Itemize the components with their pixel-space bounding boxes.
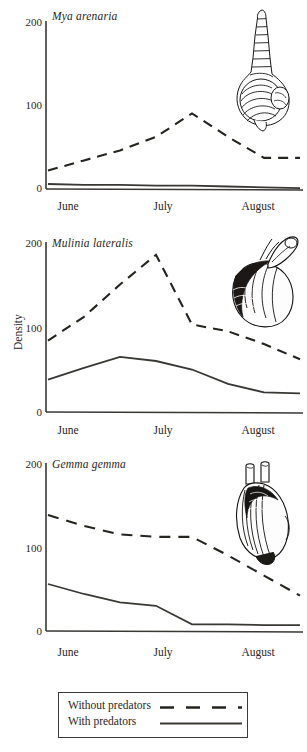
legend: Without predators With predators [58,692,248,738]
clam-siphon-icon [214,230,302,340]
chart-panel-mulinia-lateralis: Mulinia lateralis Density 200 100 0 June… [0,228,307,450]
snail-shell-icon [228,6,298,132]
chart-panel-gemma-gemma: Gemma gemma 200 100 0 June July August [0,450,307,672]
legend-swatch-dashed [160,706,242,709]
predation-density-figure: Mya arenaria 200 100 0 June July August [0,0,307,752]
legend-swatch-solid [160,722,242,725]
legend-item-without-predators: Without predators [68,699,244,715]
legend-item-with-predators: With predators [68,715,244,731]
chart-panel-mya-arenaria: Mya arenaria 200 100 0 June July August [0,0,307,228]
legend-label-with-predators: With predators [68,715,136,727]
series-with-predators-3 [48,584,300,625]
gemma-clam-icon [228,458,302,570]
legend-label-without-predators: Without predators [68,699,151,711]
series-with-predators-2 [48,357,300,394]
series-with-predators-1 [48,184,300,188]
